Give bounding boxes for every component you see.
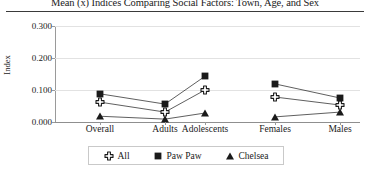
data-point-paw-paw-males[interactable] <box>335 93 345 103</box>
legend-entry-all[interactable]: All <box>103 150 129 161</box>
x-tick-label: Males <box>328 124 351 135</box>
x-tick-label: Females <box>259 124 291 135</box>
legend-entry-chelsea[interactable]: Chelsea <box>224 150 268 161</box>
chart-title: Mean (x̄) Indices Comparing Social Facto… <box>0 0 370 9</box>
y-axis-tick-labels: 0.0000.1000.2000.300 <box>8 26 52 122</box>
data-point-paw-paw-overall[interactable] <box>95 89 105 99</box>
chart-figure: Mean (x̄) Indices Comparing Social Facto… <box>0 0 370 171</box>
series-line-segment <box>165 90 205 112</box>
data-point-chelsea-overall[interactable] <box>95 111 105 121</box>
filled-square-icon <box>152 150 163 161</box>
data-point-all-females[interactable] <box>270 92 280 102</box>
series-line-segment <box>275 97 340 105</box>
y-tick-label: 0.100 <box>12 86 52 95</box>
data-point-chelsea-males[interactable] <box>335 107 345 117</box>
data-point-paw-paw-females[interactable] <box>270 79 280 89</box>
data-point-paw-paw-adults[interactable] <box>160 99 170 109</box>
series-line-segment <box>275 112 340 117</box>
series-line-segment <box>100 102 165 112</box>
title-divider <box>6 11 364 12</box>
series-line-segment <box>100 94 165 104</box>
legend-label: Chelsea <box>238 151 268 161</box>
plus-outline-icon <box>103 150 114 161</box>
y-tick-label: 0.000 <box>12 118 52 127</box>
series-line-segment <box>275 84 340 98</box>
chart-legend: AllPaw PawChelsea <box>88 146 284 165</box>
y-tick-label: 0.200 <box>12 54 52 63</box>
x-tick-label: Overall <box>86 124 115 135</box>
x-tick-label: Adults <box>152 124 177 135</box>
series-line-segment <box>100 116 165 119</box>
data-point-chelsea-adolescents[interactable] <box>200 108 210 118</box>
y-tick-label: 0.300 <box>12 22 52 31</box>
data-point-all-adolescents[interactable] <box>200 85 210 95</box>
plot-area <box>55 26 360 122</box>
legend-entry-paw-paw[interactable]: Paw Paw <box>152 150 201 161</box>
x-tick-label: Adolescents <box>182 124 228 135</box>
series-line-segment <box>165 113 205 119</box>
legend-label: All <box>117 151 129 161</box>
x-axis-tick-labels: OverallAdultsAdolescentsFemalesMales <box>55 124 360 138</box>
legend-label: Paw Paw <box>166 151 201 161</box>
series-line-segment <box>165 76 205 104</box>
data-point-paw-paw-adolescents[interactable] <box>200 71 210 81</box>
filled-triangle-icon <box>224 150 235 161</box>
data-point-chelsea-females[interactable] <box>270 112 280 122</box>
